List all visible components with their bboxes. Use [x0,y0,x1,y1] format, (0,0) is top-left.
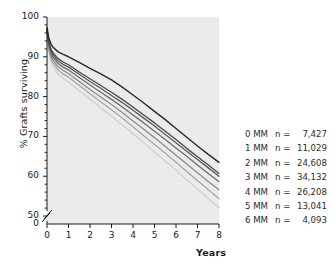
x-tick-label: 6 [169,230,183,240]
legend-series-label: 0 MM [245,129,275,139]
legend-series-label: 6 MM [245,215,275,225]
legend-n-symbol: n = [275,172,291,182]
x-tick-label: 3 [105,230,119,240]
curve-series-group [47,28,219,208]
y-tick-label: 100 [13,11,39,21]
legend-n-symbol: n = [275,143,291,153]
legend-series-label: 2 MM [245,158,275,168]
axes-group [42,17,219,228]
legend-n-symbol: n = [275,158,291,168]
legend-row: 4 MMn =26,208 [245,187,327,201]
chart-figure: % Grafts surviving Years 50607080901000 … [0,0,335,268]
x-tick-label: 7 [191,230,205,240]
legend-series-label: 3 MM [245,172,275,182]
y-tick-label: 90 [13,51,39,61]
legend-n-value: 4,093 [291,215,327,225]
legend-row: 1 MMn =11,029 [245,143,327,157]
legend-n-value: 13,041 [291,201,327,211]
curve-1-mm [47,29,219,174]
x-tick-label: 8 [212,230,226,240]
legend-row: 2 MMn =24,608 [245,158,327,172]
legend-n-value: 11,029 [291,143,327,153]
legend-n-symbol: n = [275,187,291,197]
legend-n-symbol: n = [275,215,291,225]
legend-row: 6 MMn =4,093 [245,215,327,229]
legend-row: 0 MMn =7,427 [245,129,327,143]
curve-3-mm [47,30,219,182]
legend-n-value: 34,132 [291,172,327,182]
legend-series-label: 4 MM [245,187,275,197]
x-tick-label: 4 [126,230,140,240]
y-tick-label: 70 [13,130,39,140]
legend-row: 3 MMn =34,132 [245,172,327,186]
y-tick-label-zero: 0 [13,218,39,228]
legend: 0 MMn =7,4271 MMn =11,0292 MMn =24,6083 … [245,129,327,230]
y-tick-label: 80 [13,91,39,101]
x-tick-label: 5 [148,230,162,240]
legend-n-value: 26,208 [291,187,327,197]
x-tick-label: 1 [62,230,76,240]
legend-series-label: 5 MM [245,201,275,211]
legend-n-symbol: n = [275,129,291,139]
legend-n-value: 7,427 [291,129,327,139]
x-tick-label: 0 [40,230,54,240]
y-tick-label: 60 [13,170,39,180]
x-tick-label: 2 [83,230,97,240]
legend-n-symbol: n = [275,201,291,211]
curve-0-mm [47,28,219,163]
x-axis-title: Years [196,247,226,258]
legend-row: 5 MMn =13,041 [245,201,327,215]
legend-series-label: 1 MM [245,143,275,153]
legend-n-value: 24,608 [291,158,327,168]
